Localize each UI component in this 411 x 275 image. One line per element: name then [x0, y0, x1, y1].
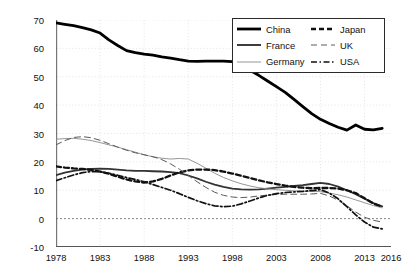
- legend-swatch-icon: [236, 24, 262, 34]
- legend-swatch-icon: [310, 24, 336, 34]
- x-tick-label: 2003: [266, 253, 287, 263]
- y-tick-label: 10: [0, 185, 48, 196]
- chart-legend: ChinaJapanFranceUKGermanyUSA: [232, 18, 385, 73]
- x-tick-label: 1978: [46, 253, 67, 263]
- x-tick-label: 1998: [222, 253, 243, 263]
- x-tick-label: 2008: [310, 253, 331, 263]
- y-tick-label: -10: [0, 242, 48, 253]
- legend-swatch-icon: [236, 40, 262, 50]
- series-line-usa: [56, 172, 382, 229]
- legend-item-japan[interactable]: Japan: [310, 24, 389, 35]
- x-tick-label: 1988: [134, 253, 155, 263]
- legend-item-uk[interactable]: UK: [310, 40, 389, 51]
- legend-item-france[interactable]: France: [236, 40, 310, 51]
- y-tick-label: 0: [0, 213, 48, 224]
- y-tick-label: 30: [0, 128, 48, 139]
- legend-label: Japan: [340, 24, 366, 35]
- legend-item-usa[interactable]: USA: [310, 56, 389, 67]
- legend-label: USA: [340, 56, 359, 67]
- x-tick-label: 1993: [178, 253, 199, 263]
- legend-swatch-icon: [310, 57, 336, 67]
- y-tick-label: 60: [0, 43, 48, 54]
- y-tick-label: 50: [0, 71, 48, 82]
- legend-item-germany[interactable]: Germany: [236, 56, 310, 67]
- legend-label: France: [266, 40, 295, 51]
- x-tick-label: 1983: [90, 253, 111, 263]
- legend-swatch-icon: [236, 57, 262, 67]
- legend-label: China: [266, 24, 291, 35]
- series-line-uk: [56, 137, 382, 222]
- legend-item-china[interactable]: China: [236, 24, 310, 35]
- legend-label: UK: [340, 40, 353, 51]
- x-tick-label: 2016: [381, 253, 402, 263]
- legend-label: Germany: [266, 56, 305, 67]
- chart-figure: Value of net public wealth (% of nationa…: [0, 0, 411, 275]
- y-tick-label: 40: [0, 100, 48, 111]
- x-tick-label: 2013: [354, 253, 375, 263]
- y-tick-label: 20: [0, 156, 48, 167]
- y-tick-label: 70: [0, 15, 48, 26]
- legend-swatch-icon: [310, 40, 336, 50]
